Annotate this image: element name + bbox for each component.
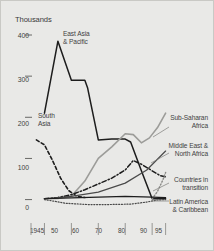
y-axis-tick-marks bbox=[25, 35, 32, 200]
series-line bbox=[44, 151, 165, 199]
chart-plot-area bbox=[1, 1, 214, 251]
x-axis-tick-marks bbox=[31, 223, 166, 235]
series-line bbox=[44, 41, 165, 199]
chart-series-lines bbox=[36, 41, 169, 204]
series-line bbox=[44, 161, 165, 199]
series-line bbox=[44, 200, 165, 205]
annotation-leader-line bbox=[153, 127, 169, 137]
chart-figure: Thousands 400 300 200 100 0 1945 50 60 7… bbox=[0, 0, 214, 251]
annotation-leader-line bbox=[151, 153, 169, 163]
